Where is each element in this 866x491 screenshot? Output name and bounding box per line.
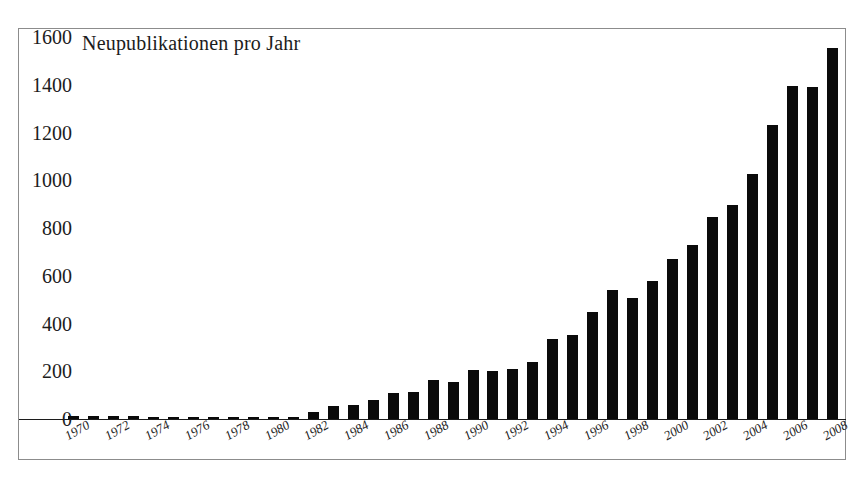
bar-series: [60, 37, 846, 419]
x-tick-slot: [244, 424, 264, 470]
bar: [487, 371, 498, 419]
bar: [747, 174, 758, 419]
bar-slot: [244, 37, 264, 419]
bar-slot: [703, 37, 723, 419]
x-tick-slot: [563, 424, 583, 470]
bar: [587, 312, 598, 419]
bar-slot: [443, 37, 463, 419]
x-tick-slot: 1976: [184, 424, 204, 470]
bar-slot: [742, 37, 762, 419]
bar-slot: [782, 37, 802, 419]
x-tick-slot: [363, 424, 383, 470]
x-tick-slot: [124, 424, 144, 470]
bar: [567, 335, 578, 419]
bar-slot: [104, 37, 124, 419]
bar: [827, 48, 838, 419]
x-tick-slot: [523, 424, 543, 470]
bar-slot: [423, 37, 443, 419]
x-tick-slot: 1994: [543, 424, 563, 470]
bar-slot: [603, 37, 623, 419]
x-tick-slot: [683, 424, 703, 470]
x-tick-slot: [483, 424, 503, 470]
bar-slot: [683, 37, 703, 419]
x-tick-slot: 1990: [463, 424, 483, 470]
x-tick-slot: 2002: [703, 424, 723, 470]
x-tick-slot: [603, 424, 623, 470]
bar-slot: [343, 37, 363, 419]
bar-slot: [722, 37, 742, 419]
bar: [787, 86, 798, 419]
bar: [807, 87, 818, 419]
x-tick-slot: [283, 424, 303, 470]
x-tick-slot: [802, 424, 822, 470]
bar-slot: [762, 37, 782, 419]
x-tick-slot: 1988: [423, 424, 443, 470]
x-tick-slot: 1978: [224, 424, 244, 470]
x-tick-slot: 1986: [383, 424, 403, 470]
bar-slot: [463, 37, 483, 419]
bar-slot: [383, 37, 403, 419]
bar-slot: [303, 37, 323, 419]
bar: [767, 125, 778, 419]
bar: [667, 259, 678, 419]
bar: [687, 245, 698, 419]
x-tick-slot: 1970: [64, 424, 84, 470]
x-tick-slot: 1984: [343, 424, 363, 470]
bar-slot: [184, 37, 204, 419]
bar-slot: [643, 37, 663, 419]
x-tick-slot: [84, 424, 104, 470]
bar-slot: [283, 37, 303, 419]
bar-slot: [323, 37, 343, 419]
bar-slot: [264, 37, 284, 419]
bar-slot: [403, 37, 423, 419]
x-tick-slot: [164, 424, 184, 470]
bar: [388, 393, 399, 419]
x-tick-slot: [403, 424, 423, 470]
bar: [368, 400, 379, 419]
bar: [348, 405, 359, 419]
x-tick-slot: [323, 424, 343, 470]
x-tick-slot: [643, 424, 663, 470]
bar: [448, 382, 459, 419]
x-tick-slot: 1982: [303, 424, 323, 470]
x-tick-slot: 1996: [583, 424, 603, 470]
bar-slot: [84, 37, 104, 419]
bar: [547, 339, 558, 419]
bar-slot: [563, 37, 583, 419]
bar: [328, 406, 339, 419]
x-tick-slot: 1992: [503, 424, 523, 470]
bar-slot: [124, 37, 144, 419]
bar: [727, 205, 738, 419]
x-tick-slot: [204, 424, 224, 470]
x-tick-slot: 1974: [144, 424, 164, 470]
bar-slot: [204, 37, 224, 419]
x-axis: 1970197219741976197819801982198419861988…: [60, 424, 846, 470]
bar-slot: [583, 37, 603, 419]
bar-slot: [64, 37, 84, 419]
bar-slot: [623, 37, 643, 419]
figure-bottom-rule: [18, 459, 846, 460]
x-tick-slot: 1972: [104, 424, 124, 470]
bar-slot: [164, 37, 184, 419]
bar: [468, 370, 479, 419]
bar: [408, 392, 419, 419]
bar-slot: [822, 37, 842, 419]
bar-slot: [802, 37, 822, 419]
bar-slot: [523, 37, 543, 419]
bar-slot: [503, 37, 523, 419]
x-tick-slot: [443, 424, 463, 470]
bar: [308, 412, 319, 419]
bar-slot: [363, 37, 383, 419]
x-tick-slot: [722, 424, 742, 470]
bar: [627, 298, 638, 419]
x-tick-slot: 2006: [782, 424, 802, 470]
bar-slot: [543, 37, 563, 419]
bar: [647, 281, 658, 419]
bar-slot: [224, 37, 244, 419]
bar-slot: [483, 37, 503, 419]
x-tick-slot: 2000: [663, 424, 683, 470]
bar-slot: [663, 37, 683, 419]
x-tick-slot: 1980: [264, 424, 284, 470]
plot-area: [60, 37, 846, 419]
bar: [507, 369, 518, 419]
